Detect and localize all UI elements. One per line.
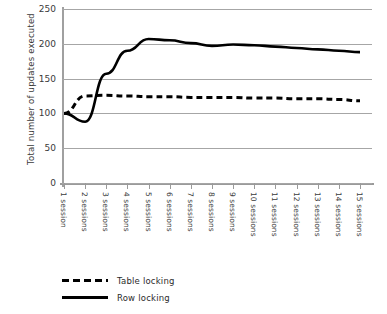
series-lines (62, 9, 372, 183)
x-axis-tick-label: 2 sessions (80, 192, 89, 232)
x-axis-tick-label: 1 session (59, 192, 68, 228)
x-axis-tick-mark (360, 183, 361, 189)
x-axis-tick-label: 7 sessions (186, 192, 195, 232)
x-axis-tick-mark (127, 183, 128, 189)
x-axis-tick-label: 6 sessions (165, 192, 174, 232)
x-axis-tick-mark (149, 183, 150, 189)
solid-line-swatch-icon (62, 292, 108, 304)
x-axis-tick-mark (191, 183, 192, 189)
x-axis-tick-label: 9 sessions (228, 192, 237, 232)
dashed-line-swatch-icon (62, 275, 108, 287)
x-axis-tick-mark (297, 183, 298, 189)
x-axis-tick-mark (233, 183, 234, 189)
x-axis-tick-mark (85, 183, 86, 189)
x-axis-tick-label: 3 sessions (101, 192, 110, 232)
gridline (62, 183, 372, 184)
x-axis-tick-mark (254, 183, 255, 189)
y-axis-tick-labels: 050100150200250 (20, 9, 56, 183)
x-axis-tick-mark (339, 183, 340, 189)
x-axis-tick-label: 12 sessions (292, 192, 301, 237)
x-axis-tick-label: 13 sessions (313, 192, 322, 237)
series-line-table-locking (64, 95, 360, 113)
x-axis-tick-mark (64, 183, 65, 189)
y-axis-tick-label: 200 (22, 39, 56, 49)
y-axis-tick-label: 0 (22, 178, 56, 188)
y-axis-tick-label: 50 (22, 143, 56, 153)
series-line-row-locking (64, 39, 360, 122)
plot-area (62, 9, 372, 183)
x-axis-tick-label: 14 sessions (334, 192, 343, 237)
x-axis-tick-label: 4 sessions (122, 192, 131, 232)
x-axis-tick-label: 8 sessions (207, 192, 216, 232)
legend-item-row-locking: Row locking (62, 289, 312, 306)
x-axis-tick-label: 5 sessions (144, 192, 153, 232)
x-axis-tick-mark (106, 183, 107, 189)
y-axis-tick-label: 100 (22, 108, 56, 118)
x-axis-tick-label: 10 sessions (249, 192, 258, 237)
legend-item-table-locking: Table locking (62, 272, 312, 289)
chart-container: Total number of updates executed 0501001… (0, 0, 387, 314)
x-axis-tick-mark (275, 183, 276, 189)
x-axis-tick-mark (170, 183, 171, 189)
legend-label: Table locking (117, 276, 175, 286)
x-axis-tick-label: 15 sessions (355, 192, 364, 237)
legend-label: Row locking (117, 293, 170, 303)
x-axis-tick-label: 11 sessions (270, 192, 279, 237)
y-axis-tick-label: 150 (22, 74, 56, 84)
chart-legend: Table locking Row locking (62, 272, 312, 306)
y-axis-tick-label: 250 (22, 4, 56, 14)
x-axis-tick-mark (318, 183, 319, 189)
x-axis-tick-mark (212, 183, 213, 189)
